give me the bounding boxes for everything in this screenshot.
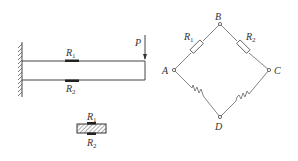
label-node-d: D: [214, 121, 223, 132]
label-r2-beam: R2: [65, 83, 76, 96]
node-b: [218, 22, 221, 25]
cantilever-beam: R1 R2 P: [18, 35, 147, 97]
load-label-p: P: [134, 37, 141, 48]
label-r1-bridge: R1: [183, 31, 194, 44]
wheatstone-bridge: A B C D R1 R2: [161, 11, 281, 132]
label-r2-section: R2: [86, 137, 97, 150]
beam-cross-section: R1 R2: [77, 111, 106, 150]
label-node-c: C: [274, 65, 281, 76]
label-r2-bridge: R2: [245, 31, 256, 44]
resistor-dc-zigzag-icon: [220, 70, 269, 117]
label-r1-beam: R1: [65, 47, 76, 60]
fixed-wall-icon: [18, 42, 22, 97]
node-a: [172, 68, 175, 71]
label-node-b: B: [215, 11, 221, 22]
node-d: [218, 115, 221, 118]
load-arrow-icon: [143, 35, 147, 60]
strain-gauge-diagram: R1 R2 P R1 R2 A B C: [0, 0, 298, 161]
resistor-ad-zigzag-icon: [174, 70, 220, 117]
label-node-a: A: [161, 65, 169, 76]
gauge-r2-bottom: [65, 80, 79, 83]
gauge-r2-section: [87, 133, 96, 136]
node-c: [267, 68, 270, 71]
